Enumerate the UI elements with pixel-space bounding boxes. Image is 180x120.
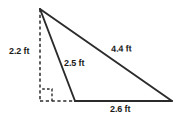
geometry-figure: 2.2 ft 2.5 ft 4.4 ft 2.6 ft: [0, 0, 180, 120]
triangle-diagram-svg: [0, 0, 180, 120]
label-height: 2.2 ft: [9, 47, 29, 56]
label-slant-side: 2.5 ft: [64, 59, 84, 68]
edge-hypotenuse: [40, 9, 172, 101]
right-angle-marker-icon: [40, 89, 52, 101]
label-base: 2.6 ft: [110, 105, 130, 114]
edge-slant-side: [40, 9, 75, 101]
label-hypotenuse: 4.4 ft: [111, 44, 132, 54]
